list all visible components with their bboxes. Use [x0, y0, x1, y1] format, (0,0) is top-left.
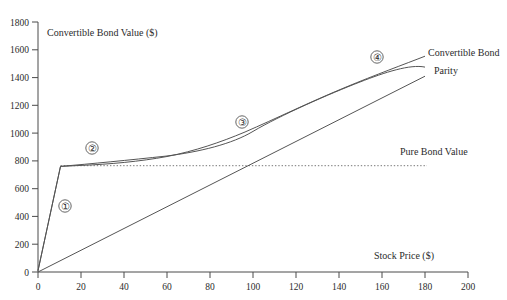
- x-tick-label-200: 200: [461, 282, 476, 292]
- series-label-parity: Parity: [434, 65, 458, 76]
- x-tick-label-0: 0: [36, 282, 41, 292]
- x-tick-label-60: 60: [162, 282, 172, 292]
- y-axis-ticks: [32, 22, 38, 272]
- y-tick-label-1600: 1600: [10, 45, 29, 55]
- y-tick-label-1200: 1200: [10, 101, 29, 111]
- y-tick-label-1000: 1000: [10, 129, 29, 139]
- annotation-marker-4: ④: [371, 51, 383, 63]
- y-tick-label-1400: 1400: [10, 73, 29, 83]
- x-axis-ticks: [38, 272, 468, 278]
- y-tick-label-400: 400: [15, 212, 30, 222]
- annotation-marker-3: ③: [236, 116, 248, 128]
- series-label-pure-bond-value: Pure Bond Value: [400, 146, 468, 157]
- x-tick-label-160: 160: [375, 282, 390, 292]
- chart-svg: 1800 1600 1400 1200 1000 800 600 400 200…: [0, 0, 507, 300]
- x-tick-label-120: 120: [289, 282, 304, 292]
- y-tick-label-200: 200: [15, 240, 30, 250]
- x-axis-title: Stock Price ($): [374, 250, 434, 262]
- parity-line: [38, 76, 425, 272]
- convertible-bond-value-chart: 1800 1600 1400 1200 1000 800 600 400 200…: [0, 0, 507, 300]
- annotation-marker-2: ②: [86, 142, 98, 154]
- x-tick-label-20: 20: [76, 282, 86, 292]
- x-tick-label-100: 100: [246, 282, 261, 292]
- y-tick-label-1800: 1800: [10, 18, 29, 28]
- annotation-marker-3-label: ③: [238, 118, 247, 128]
- annotation-marker-1: ①: [59, 200, 71, 212]
- y-tick-label-600: 600: [15, 184, 30, 194]
- y-axis-title: Convertible Bond Value ($): [47, 27, 158, 39]
- x-tick-label-40: 40: [119, 282, 129, 292]
- x-tick-label-180: 180: [418, 282, 433, 292]
- annotation-marker-2-label: ②: [88, 144, 97, 154]
- series-label-convertible-bond: Convertible Bond: [428, 47, 499, 58]
- convertible-bond-curve: [38, 66, 425, 270]
- annotation-marker-1-label: ①: [61, 202, 70, 212]
- y-tick-label-0: 0: [24, 268, 29, 278]
- y-tick-label-800: 800: [15, 156, 30, 166]
- x-tick-label-80: 80: [205, 282, 215, 292]
- x-tick-label-140: 140: [332, 282, 347, 292]
- annotation-marker-4-label: ④: [373, 53, 382, 63]
